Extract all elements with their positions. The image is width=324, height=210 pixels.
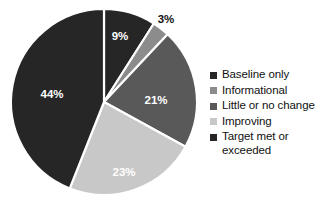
pie-slice-group — [11, 9, 197, 195]
legend-item[interactable]: Informational — [210, 84, 324, 98]
legend-swatch-icon — [210, 103, 217, 110]
legend-item[interactable]: Little or no change — [210, 99, 324, 113]
legend-swatch-icon — [210, 118, 217, 125]
pie-slice-value-label: 3% — [158, 13, 175, 25]
pie-slice-value-label: 23% — [112, 166, 135, 178]
legend-item-label: Informational — [222, 84, 287, 98]
legend-swatch-icon — [210, 87, 217, 94]
legend-item-label: Little or no change — [222, 99, 315, 113]
pie-graphic: 9%3%21%23%44% — [0, 0, 210, 210]
legend-item[interactable]: Target met or exceeded — [210, 130, 324, 157]
legend-item-label: Target met or exceeded — [222, 130, 324, 157]
legend-swatch-icon — [210, 72, 217, 79]
legend-item[interactable]: Improving — [210, 115, 324, 129]
legend-swatch-icon — [210, 134, 217, 141]
pie-slice-value-label: 21% — [144, 94, 167, 106]
legend-item-label: Baseline only — [222, 68, 289, 82]
legend-item[interactable]: Baseline only — [210, 68, 324, 82]
pie-slice-value-label: 44% — [40, 88, 63, 100]
pie-slice-value-label: 9% — [112, 30, 129, 42]
chart-legend: Baseline onlyInformationalLittle or no c… — [210, 68, 324, 159]
pie-chart: 9%3%21%23%44% Baseline onlyInformational… — [0, 0, 324, 210]
legend-item-label: Improving — [222, 115, 272, 129]
